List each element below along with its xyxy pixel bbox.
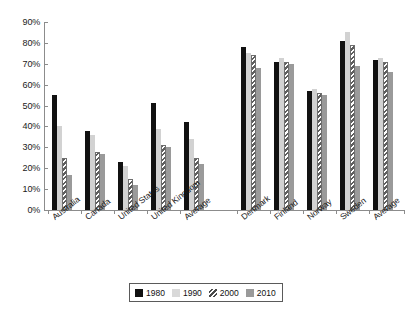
bar-group — [85, 22, 111, 210]
y-axis-tick-label: 30% — [0, 142, 40, 152]
legend-item-1980: 1980 — [135, 288, 165, 298]
legend-label-2000: 2000 — [220, 288, 239, 298]
y-axis-tick-mark — [44, 210, 48, 211]
legend-swatch-2010-icon — [246, 289, 254, 297]
bar-group — [373, 22, 399, 210]
legend-label-1990: 1990 — [183, 288, 202, 298]
y-axis-tick-mark — [44, 147, 48, 148]
legend-swatch-1990-icon — [172, 289, 180, 297]
legend-swatch-1980-icon — [135, 289, 143, 297]
y-axis-tick-mark — [44, 22, 48, 23]
y-axis-tick-label: 40% — [0, 121, 40, 131]
y-axis-tick-label: 90% — [0, 17, 40, 27]
bar-2010 — [256, 68, 261, 210]
y-axis-tick-label: 10% — [0, 184, 40, 194]
legend-item-1990: 1990 — [172, 288, 202, 298]
y-axis-tick-mark — [44, 168, 48, 169]
legend-label-1980: 1980 — [146, 288, 165, 298]
bar-2010 — [355, 66, 360, 210]
y-axis-tick-mark — [44, 189, 48, 190]
bar-group — [241, 22, 267, 210]
bar-group — [118, 22, 144, 210]
y-axis-tick-mark — [44, 64, 48, 65]
bar-group — [52, 22, 78, 210]
y-axis-tick-mark — [44, 126, 48, 127]
y-axis-tick-label: 70% — [0, 59, 40, 69]
y-axis-tick-label: 50% — [0, 101, 40, 111]
y-axis-tick-mark — [44, 43, 48, 44]
bar-group — [274, 22, 300, 210]
y-axis-tick-label: 20% — [0, 163, 40, 173]
bar-chart: 90%80%70%60%50%40%30%20%10%0% AustraliaC… — [0, 0, 416, 315]
bar-group — [307, 22, 333, 210]
x-axis-tick-mark — [404, 210, 405, 214]
bar-2010 — [322, 95, 327, 210]
legend-item-2000: 2000 — [209, 288, 239, 298]
y-axis-tick-label: 80% — [0, 38, 40, 48]
chart-legend: 1980 1990 2000 2010 — [129, 283, 283, 302]
y-axis-tick-mark — [44, 85, 48, 86]
y-axis-tick-mark — [44, 106, 48, 107]
legend-label-2010: 2010 — [257, 288, 276, 298]
y-axis-tick-label: 60% — [0, 80, 40, 90]
y-axis-tick-label: 0% — [0, 205, 40, 215]
bar-2010 — [388, 72, 393, 210]
legend-item-2010: 2010 — [246, 288, 276, 298]
bar-2010 — [289, 64, 294, 210]
legend-swatch-2000-icon — [209, 289, 217, 297]
y-axis-tick-labels: 90%80%70%60%50%40%30%20%10%0% — [0, 0, 44, 315]
bar-group — [340, 22, 366, 210]
bar-group — [151, 22, 177, 210]
plot-area — [44, 22, 404, 210]
